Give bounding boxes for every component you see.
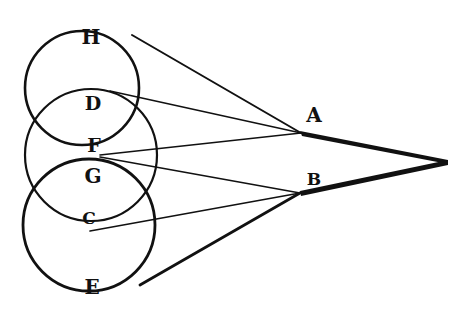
label-B: B [307, 171, 321, 188]
diagram-drawing [0, 0, 462, 317]
beam-B-apex [300, 160, 448, 196]
label-F: F [87, 136, 101, 155]
label-E: E [84, 277, 99, 297]
label-C: C [82, 210, 96, 227]
label-G: G [84, 166, 101, 186]
label-A: A [306, 105, 322, 125]
ray-F-A [100, 133, 301, 155]
label-D: D [85, 94, 101, 113]
ray-D-A [110, 91, 301, 133]
beam-A-apex [300, 131, 448, 164]
label-H: H [82, 27, 101, 47]
diagram: H D F G C E A B [0, 0, 462, 317]
ray-H-A [132, 35, 301, 133]
